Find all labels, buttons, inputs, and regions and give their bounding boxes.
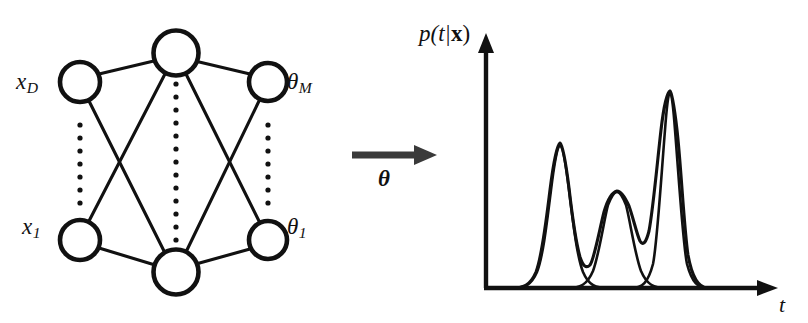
y-axis-arrowhead bbox=[478, 33, 494, 53]
node-output-bottom[interactable] bbox=[249, 221, 287, 259]
y-axis-label-suffix: ) bbox=[462, 21, 470, 46]
mixture-sum-curve bbox=[497, 91, 760, 288]
edge-hidden-top-output-bottom bbox=[186, 74, 259, 221]
label-output-bottom-subscript: 1 bbox=[299, 224, 307, 241]
density-curves bbox=[497, 91, 760, 288]
arrow-theta-label: θ bbox=[378, 167, 390, 190]
label-input-bottom-base: x bbox=[22, 214, 32, 239]
figure-canvas bbox=[0, 0, 808, 323]
edge-input-top-hidden-bottom bbox=[89, 101, 165, 253]
hidden-column-dots bbox=[173, 81, 178, 242]
label-input-bottom: x1 bbox=[22, 215, 41, 241]
label-input-top-base: x bbox=[16, 69, 26, 94]
node-input-bottom[interactable] bbox=[60, 220, 100, 260]
component-curve-3 bbox=[619, 92, 724, 288]
theta-transform-arrow bbox=[352, 145, 437, 165]
edge-input-bottom-hidden-top bbox=[89, 72, 166, 221]
node-input-top[interactable] bbox=[60, 62, 100, 102]
x-axis-label: t bbox=[779, 294, 785, 316]
label-output-bottom-base: θ bbox=[287, 214, 298, 239]
label-output-bottom: θ1 bbox=[287, 215, 307, 241]
node-output-top[interactable] bbox=[249, 63, 287, 101]
edge-input-bottom-hidden-bottom bbox=[99, 248, 155, 265]
y-axis-label-prefix: p(t| bbox=[419, 21, 451, 46]
node-hidden-bottom[interactable] bbox=[154, 250, 199, 295]
label-output-top: θM bbox=[287, 70, 312, 96]
edge-input-top-hidden-top bbox=[99, 60, 158, 74]
label-output-top-base: θ bbox=[287, 69, 298, 94]
edge-hidden-bottom-output-top bbox=[186, 101, 259, 252]
label-input-top: xD bbox=[16, 70, 38, 96]
node-hidden-top[interactable] bbox=[154, 31, 199, 76]
edge-hidden-bottom-output-bottom bbox=[196, 249, 250, 264]
y-axis-label: p(t|x) bbox=[419, 22, 470, 45]
input-column-dots bbox=[77, 122, 82, 205]
mixture-density-network-figure: xD x1 θM θ1 θ p(t|x) t bbox=[0, 0, 808, 323]
y-axis-label-bold-x: x bbox=[451, 21, 463, 46]
label-input-top-subscript: D bbox=[27, 79, 38, 96]
label-output-top-subscript: M bbox=[299, 79, 312, 96]
label-input-bottom-subscript: 1 bbox=[33, 224, 41, 241]
output-column-dots bbox=[265, 122, 270, 205]
edge-hidden-top-output-top bbox=[195, 61, 250, 74]
network-ellipsis-dots bbox=[77, 81, 270, 242]
plot-axes bbox=[478, 33, 778, 296]
